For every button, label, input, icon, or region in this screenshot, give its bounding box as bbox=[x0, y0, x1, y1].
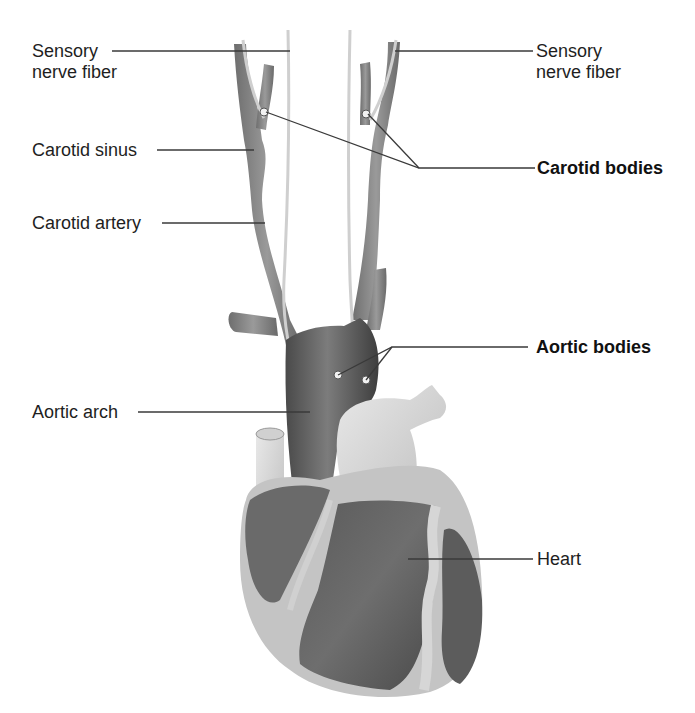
label-line: nerve fiber bbox=[536, 62, 621, 83]
label-aortic-arch: Aortic arch bbox=[32, 402, 118, 423]
label-line: Sensory bbox=[536, 41, 621, 62]
label-aortic-bodies: Aortic bodies bbox=[536, 337, 651, 358]
label-carotid-sinus: Carotid sinus bbox=[32, 140, 137, 161]
label-carotid-artery: Carotid artery bbox=[32, 213, 141, 234]
label-line: nerve fiber bbox=[32, 62, 117, 83]
label-sensory-nerve-fiber-left: Sensory nerve fiber bbox=[32, 41, 117, 83]
label-carotid-bodies: Carotid bodies bbox=[537, 158, 663, 179]
label-line: Sensory bbox=[32, 41, 117, 62]
heart-illustration bbox=[240, 318, 482, 697]
label-sensory-nerve-fiber-right: Sensory nerve fiber bbox=[536, 41, 621, 83]
label-heart: Heart bbox=[537, 549, 581, 570]
right-carotid-artery bbox=[352, 42, 400, 330]
